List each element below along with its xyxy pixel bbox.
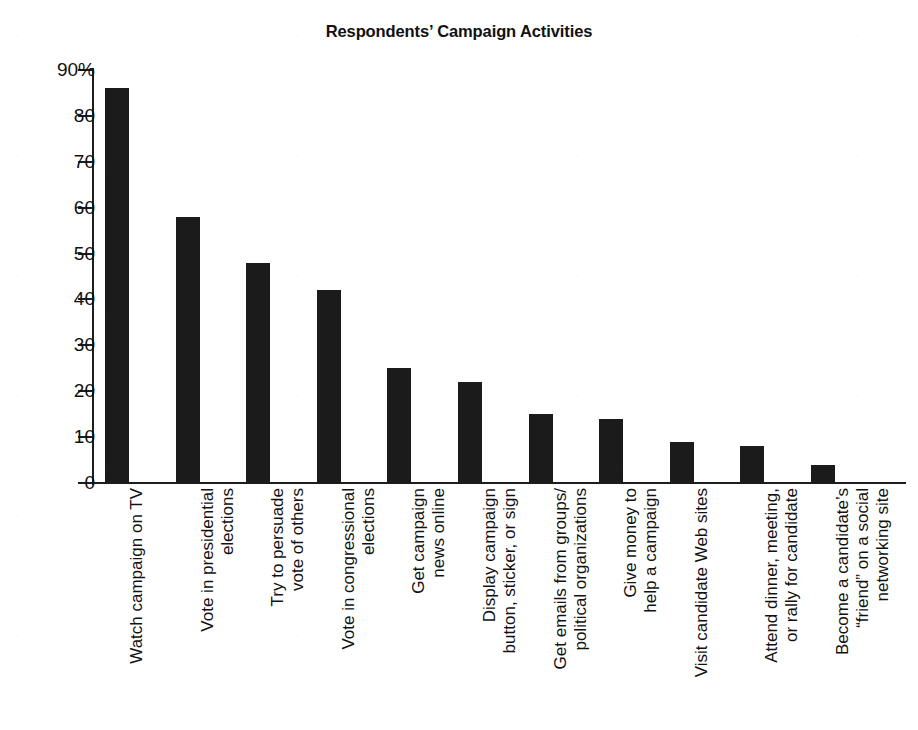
x-axis-label: Vote in presidential elections (198, 488, 238, 726)
x-axis-label: Display campaign button, sticker, or sig… (480, 488, 520, 726)
x-axis-label: Attend dinner, meeting, or rally for can… (762, 488, 802, 726)
y-tick-label: 90% (33, 60, 95, 79)
y-tick-label: 60 (33, 198, 95, 217)
y-tick-label: 10 (33, 427, 95, 446)
bar (529, 414, 553, 483)
y-tick-label: 80 (33, 106, 95, 125)
x-axis-label: Become a candidate’s “friend” on a socia… (833, 488, 893, 726)
x-axis-label: Try to persuade vote of others (268, 488, 308, 726)
x-axis-label: Visit candidate Web sites (692, 488, 712, 726)
bar (387, 368, 411, 483)
y-tick-label: 0 (33, 473, 95, 492)
bar-series (94, 70, 906, 483)
bar (176, 217, 200, 483)
bar (670, 442, 694, 483)
x-axis-label: Vote in congressional elections (339, 488, 379, 726)
bar (317, 290, 341, 483)
x-axis-category-labels: Watch campaign on TVVote in presidential… (94, 488, 906, 730)
x-axis-label: Give money to help a campaign (621, 488, 661, 726)
y-axis-ticks: 90%80706050403020100 (0, 0, 95, 730)
bar (105, 88, 129, 483)
y-tick-label: 70 (33, 152, 95, 171)
chart-figure: Respondents’ Campaign Activities 90%8070… (0, 0, 918, 730)
bar (811, 465, 835, 483)
chart-title: Respondents’ Campaign Activities (0, 22, 918, 41)
x-axis-label: Watch campaign on TV (127, 488, 147, 726)
bar (740, 446, 764, 483)
y-tick-label: 30 (33, 335, 95, 354)
y-tick-label: 50 (33, 244, 95, 263)
bar (246, 263, 270, 483)
bar (599, 419, 623, 483)
x-axis-label: Get emails from groups/ political organi… (551, 488, 591, 726)
x-axis-label: Get campaign news online (409, 488, 449, 726)
y-tick-label: 40 (33, 289, 95, 308)
bar (458, 382, 482, 483)
y-tick-label: 20 (33, 381, 95, 400)
